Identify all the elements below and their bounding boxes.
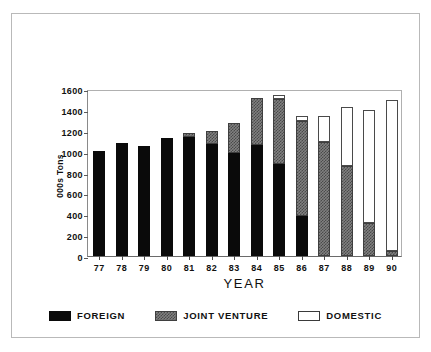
x-axis-tick-mark xyxy=(257,256,258,260)
bar-85 xyxy=(273,95,285,256)
y-axis-tick-mark xyxy=(84,258,88,259)
bar-segment-joint-venture xyxy=(206,131,218,145)
bar-segment-joint-venture xyxy=(228,123,240,152)
x-axis-tick-mark xyxy=(189,256,190,260)
x-axis-tick-mark xyxy=(347,256,348,260)
bar-78 xyxy=(116,143,128,256)
x-axis-tick-label: 88 xyxy=(341,263,352,273)
x-axis-tick-mark xyxy=(234,256,235,260)
x-axis-tick-mark xyxy=(279,256,280,260)
bar-83 xyxy=(228,123,240,256)
legend-item-foreign[interactable]: FOREIGN xyxy=(49,310,125,321)
x-axis-tick-label: 85 xyxy=(274,263,285,273)
y-axis-tick-mark xyxy=(84,112,88,113)
bar-segment-foreign xyxy=(206,144,218,256)
y-axis-label: 000s Tons xyxy=(55,154,65,198)
bar-segment-joint-venture xyxy=(363,223,375,256)
legend-item-joint-venture[interactable]: JOINT VENTURE xyxy=(155,310,268,321)
bar-segment-domestic xyxy=(363,110,375,223)
bar-segment-joint-venture xyxy=(251,98,263,145)
x-axis-tick-mark xyxy=(212,256,213,260)
bar-79 xyxy=(138,146,150,256)
bar-77 xyxy=(93,151,105,256)
bar-segment-joint-venture xyxy=(318,142,330,256)
x-axis-tick-label: 77 xyxy=(94,263,105,273)
x-axis-tick-label: 79 xyxy=(139,263,150,273)
legend-label: FOREIGN xyxy=(77,310,125,321)
bar-88 xyxy=(341,107,353,256)
bar-82 xyxy=(206,131,218,256)
bar-segment-foreign xyxy=(93,151,105,256)
x-axis-title: YEAR xyxy=(87,276,402,291)
chart-legend: FOREIGNJOINT VENTUREDOMESTIC xyxy=(12,310,419,321)
bar-segment-foreign xyxy=(296,216,308,256)
x-axis-tick-label: 87 xyxy=(319,263,330,273)
foreign-swatch xyxy=(49,311,71,321)
bar-90 xyxy=(386,100,398,256)
bar-segment-foreign xyxy=(116,143,128,256)
bar-segment-foreign xyxy=(228,153,240,256)
chart-frame: 000s Tons 020040060080010001200140016007… xyxy=(11,13,420,338)
bar-segment-foreign xyxy=(138,146,150,256)
y-axis-tick-mark xyxy=(84,237,88,238)
plot-area: 0200400600800100012001400160077787980818… xyxy=(87,90,402,257)
x-axis-tick-label: 83 xyxy=(229,263,240,273)
y-axis-tick-mark xyxy=(84,195,88,196)
x-axis-tick-label: 82 xyxy=(206,263,217,273)
y-axis-tick-mark xyxy=(84,154,88,155)
x-axis-tick-label: 80 xyxy=(161,263,172,273)
y-axis-tick-mark xyxy=(84,175,88,176)
x-axis-tick-mark xyxy=(302,256,303,260)
bar-segment-foreign xyxy=(161,138,173,256)
legend-label: DOMESTIC xyxy=(326,310,382,321)
x-axis-tick-label: 84 xyxy=(251,263,262,273)
legend-label: JOINT VENTURE xyxy=(183,310,268,321)
domestic-swatch xyxy=(298,311,320,321)
bar-segment-domestic xyxy=(386,100,398,250)
joint-venture-swatch xyxy=(155,311,177,321)
bar-segment-foreign xyxy=(251,145,263,256)
x-axis-tick-label: 78 xyxy=(116,263,127,273)
bar-87 xyxy=(318,116,330,256)
x-axis-tick-mark xyxy=(122,256,123,260)
bar-84 xyxy=(251,98,263,256)
x-axis-tick-mark xyxy=(369,256,370,260)
x-axis-tick-mark xyxy=(324,256,325,260)
bar-segment-foreign xyxy=(183,137,195,256)
x-axis-tick-label: 90 xyxy=(386,263,397,273)
y-axis-tick-mark xyxy=(84,133,88,134)
x-axis-tick-label: 89 xyxy=(364,263,375,273)
x-axis-tick-mark xyxy=(99,256,100,260)
bar-80 xyxy=(161,138,173,256)
x-axis-tick-mark xyxy=(392,256,393,260)
x-axis-tick-mark xyxy=(167,256,168,260)
y-axis-tick-mark xyxy=(84,216,88,217)
x-axis-tick-label: 86 xyxy=(296,263,307,273)
bar-segment-joint-venture xyxy=(341,166,353,256)
x-axis-tick-mark xyxy=(144,256,145,260)
legend-item-domestic[interactable]: DOMESTIC xyxy=(298,310,382,321)
bar-segment-foreign xyxy=(273,164,285,256)
bar-89 xyxy=(363,110,375,256)
bar-segment-joint-venture xyxy=(273,99,285,164)
y-axis-tick-mark xyxy=(84,91,88,92)
bar-86 xyxy=(296,116,308,256)
bar-81 xyxy=(183,133,195,256)
bar-segment-domestic xyxy=(318,116,330,142)
bar-segment-domestic xyxy=(341,107,353,166)
x-axis-tick-label: 81 xyxy=(184,263,195,273)
bar-segment-joint-venture xyxy=(296,121,308,216)
